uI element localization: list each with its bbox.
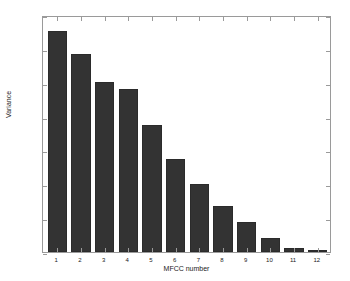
x-tick-label: 6 [173, 257, 176, 263]
y-tick-mark [43, 119, 47, 120]
bar [48, 31, 67, 252]
bar [71, 54, 90, 252]
bar [213, 206, 232, 252]
x-tick-mark [81, 17, 82, 21]
bar-series [43, 17, 330, 252]
x-tick-mark [105, 248, 106, 252]
x-tick-mark [105, 17, 106, 21]
x-tick-mark [199, 248, 200, 252]
x-tick-mark [57, 248, 58, 252]
x-tick-mark [176, 248, 177, 252]
x-tick-label: 10 [266, 257, 273, 263]
y-tick-mark [43, 220, 47, 221]
y-axis-title: Variance [5, 91, 12, 118]
x-tick-label: 5 [149, 257, 152, 263]
x-tick-label: 4 [126, 257, 129, 263]
x-tick-mark [247, 248, 248, 252]
x-tick-label: 2 [78, 257, 81, 263]
x-tick-label: 9 [244, 257, 247, 263]
bar [190, 184, 209, 252]
x-tick-mark [294, 248, 295, 252]
y-tick-mark [326, 152, 330, 153]
x-tick-mark [152, 17, 153, 21]
y-tick-mark [43, 17, 47, 18]
x-tick-mark [247, 17, 248, 21]
x-tick-mark [199, 17, 200, 21]
x-tick-mark [223, 248, 224, 252]
y-tick-mark [43, 51, 47, 52]
x-tick-label: 7 [197, 257, 200, 263]
x-tick-mark [81, 248, 82, 252]
y-tick-mark [326, 254, 330, 255]
x-tick-mark [128, 248, 129, 252]
figure-canvas: Variance 0100200300400500600700 12345678… [0, 0, 350, 281]
x-tick-mark [57, 17, 58, 21]
x-tick-mark [318, 248, 319, 252]
y-tick-mark [326, 51, 330, 52]
y-tick-mark [326, 85, 330, 86]
y-tick-mark [326, 220, 330, 221]
bar [166, 159, 185, 252]
x-tick-mark [270, 248, 271, 252]
y-tick-mark [43, 254, 47, 255]
x-tick-label: 1 [55, 257, 58, 263]
x-axis-title: MFCC number [42, 265, 331, 272]
x-tick-mark [176, 17, 177, 21]
y-tick-mark [326, 119, 330, 120]
bar [142, 125, 161, 252]
y-tick-mark [326, 186, 330, 187]
x-tick-mark [152, 248, 153, 252]
x-tick-label: 11 [290, 257, 296, 263]
x-tick-mark [294, 17, 295, 21]
bar [95, 82, 114, 252]
x-tick-mark [223, 17, 224, 21]
x-tick-label: 3 [102, 257, 105, 263]
y-tick-mark [43, 85, 47, 86]
x-tick-label: 8 [220, 257, 223, 263]
x-tick-mark [128, 17, 129, 21]
y-tick-mark [326, 17, 330, 18]
plot-area [42, 16, 331, 253]
y-tick-mark [43, 152, 47, 153]
x-tick-mark [318, 17, 319, 21]
x-tick-mark [270, 17, 271, 21]
y-tick-mark [43, 186, 47, 187]
x-tick-label: 12 [313, 257, 320, 263]
bar [119, 89, 138, 252]
